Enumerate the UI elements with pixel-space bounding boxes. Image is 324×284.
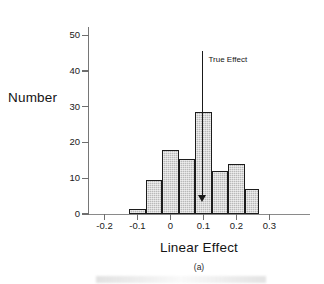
x-tick-label--0.2: -0.2 xyxy=(89,221,119,231)
scan-artifact xyxy=(96,276,266,283)
histogram-bar xyxy=(212,171,228,214)
y-tick-label-50: 50 xyxy=(56,30,80,40)
histogram-bar xyxy=(162,150,178,214)
histogram-figure: Number 01020304050 -0.2-0.100.10.20.3 Tr… xyxy=(0,0,324,284)
figure-caption: (a) xyxy=(88,262,310,272)
y-tick-label-0: 0 xyxy=(56,209,80,219)
x-tick-label-0.2: 0.2 xyxy=(221,221,251,231)
histogram-bar xyxy=(228,164,244,214)
x-tick-label-0: 0 xyxy=(155,221,185,231)
y-tick-label-30: 30 xyxy=(56,102,80,112)
histogram-bar xyxy=(179,159,195,214)
x-tick-label--0.1: -0.1 xyxy=(122,221,152,231)
y-tick-label-40: 40 xyxy=(56,66,80,76)
x-tick-label-0.1: 0.1 xyxy=(188,221,218,231)
true-effect-arrow-line xyxy=(202,51,203,196)
histogram-bar xyxy=(245,189,260,214)
true-effect-label: True Effect xyxy=(208,56,247,64)
x-axis-label: Linear Effect xyxy=(88,240,310,255)
x-tick-label-0.3: 0.3 xyxy=(254,221,284,231)
y-tick-label-10: 10 xyxy=(56,173,80,183)
y-tick-label-20: 20 xyxy=(56,137,80,147)
true-effect-arrow-head xyxy=(198,195,206,202)
histogram-bar xyxy=(146,180,162,214)
plot-area xyxy=(88,28,276,214)
histogram-bar xyxy=(129,209,145,214)
